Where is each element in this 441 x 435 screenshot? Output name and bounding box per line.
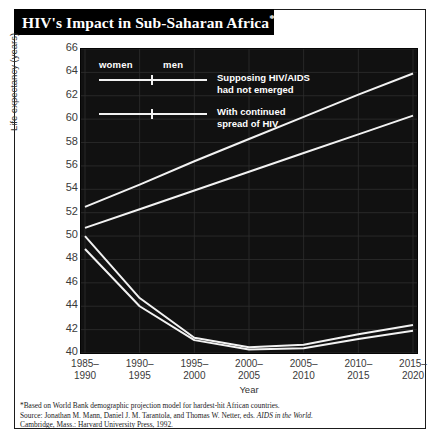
footnotes: *Based on World Bank demographic project…: [20, 401, 424, 430]
title-footnote-marker: *: [269, 12, 275, 24]
legend-header-women: women: [99, 59, 163, 70]
x-tick-label: 2005–2010: [277, 358, 331, 381]
y-tick-label: 44: [56, 298, 78, 310]
chart-legend: women men Supposing HIV/AIDS had not eme…: [99, 59, 310, 129]
y-tick-label: 46: [56, 275, 78, 287]
legend-tick-sample: [151, 109, 153, 119]
legend-swatch-no-hiv: [99, 74, 207, 86]
y-tick-label: 58: [56, 135, 78, 147]
x-axis-label: Year: [80, 384, 418, 395]
y-tick-label: 48: [56, 251, 78, 263]
footnote-source-prefix: Source: Jonathan M. Mann, Daniel J. M. T…: [20, 411, 257, 420]
legend-row-no-hiv: Supposing HIV/AIDS had not emerged: [99, 72, 310, 95]
page-title: HIV's Impact in Sub-Saharan Africa*: [22, 12, 275, 32]
y-tick-label: 56: [56, 158, 78, 170]
legend-header-men: men: [163, 59, 213, 70]
footnote-source-title: AIDS in the World.: [257, 411, 313, 420]
y-tick-label: 62: [56, 88, 78, 100]
legend-label-with-hiv: With continued spread of HIV: [217, 106, 286, 129]
chart-page: HIV's Impact in Sub-Saharan Africa* Life…: [0, 0, 441, 435]
x-tick-label: 2010–2015: [331, 358, 385, 381]
page-title-text: HIV's Impact in Sub-Saharan Africa: [22, 14, 269, 31]
y-axis-ticks: 6664626058565452504846444240: [56, 44, 78, 354]
y-tick-label: 54: [56, 181, 78, 193]
footnote-basis: *Based on World Bank demographic project…: [20, 401, 424, 411]
legend-spacer: [99, 95, 310, 104]
legend-swatch-with-hiv: [99, 108, 207, 120]
x-tick-label: 1990–1995: [113, 358, 167, 381]
y-tick-label: 42: [56, 322, 78, 334]
y-tick-label: 52: [56, 205, 78, 217]
legend-row-with-hiv: With continued spread of HIV: [99, 106, 310, 129]
x-tick-label: 1995–2000: [167, 358, 221, 381]
x-tick-label: 1985–1990: [58, 358, 112, 381]
legend-line-sample: [99, 79, 207, 81]
footnote-source: Source: Jonathan M. Mann, Daniel J. M. T…: [20, 411, 424, 421]
legend-line-sample: [99, 113, 207, 115]
footnote-publisher: Cambridge, Mass.: Harvard University Pre…: [20, 420, 424, 430]
plot-canvas: women men Supposing HIV/AIDS had not eme…: [80, 48, 418, 354]
x-tick-label: 2000–2005: [222, 358, 276, 381]
title-banner: HIV's Impact in Sub-Saharan Africa*: [14, 9, 274, 35]
y-tick-label: 64: [56, 64, 78, 76]
legend-label-no-hiv: Supposing HIV/AIDS had not emerged: [217, 72, 310, 95]
y-tick-label: 50: [56, 228, 78, 240]
x-tick-label: 2015–2020: [386, 358, 440, 381]
y-tick-label: 66: [56, 41, 78, 53]
legend-column-headers: women men: [99, 59, 310, 70]
chart-area: Life expectancy (years) 6664626058565452…: [22, 44, 420, 392]
y-tick-label: 60: [56, 111, 78, 123]
y-axis-label: Life expectancy (years): [8, 2, 19, 162]
y-tick-label: 40: [56, 345, 78, 357]
legend-tick-sample: [151, 75, 153, 85]
